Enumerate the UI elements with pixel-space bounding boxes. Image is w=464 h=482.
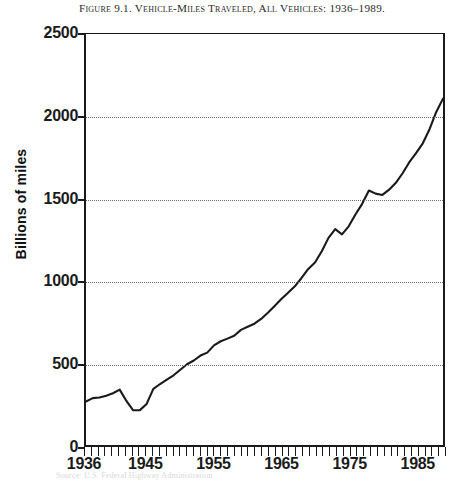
gridline-1500 [86, 200, 443, 201]
y-tick-label-2000: 2000 [44, 108, 78, 124]
figure-container: Figure 9.1. Vehicle-Miles Traveled, All … [0, 0, 464, 482]
y-tick-label-500: 500 [52, 356, 78, 372]
y-tick-label-0: 0 [69, 439, 78, 455]
x-tick-label-1965: 1965 [264, 455, 298, 473]
x-tick-label-1985: 1985 [401, 455, 435, 473]
y-tick-label-2500: 2500 [44, 25, 78, 41]
y-tick-label-1500: 1500 [44, 191, 78, 207]
gridline-500 [86, 365, 443, 366]
gridline-1000 [86, 282, 443, 283]
gridline-2000 [86, 117, 443, 118]
x-tick-label-1975: 1975 [332, 455, 366, 473]
y-axis-tick-labels: 05001000150020002500 [0, 0, 78, 482]
plot-area [84, 33, 445, 447]
y-tick-label-1000: 1000 [44, 273, 78, 289]
source-note: Source: U.S. Federal Highway Administrat… [56, 471, 213, 480]
data-line-series [86, 34, 443, 445]
